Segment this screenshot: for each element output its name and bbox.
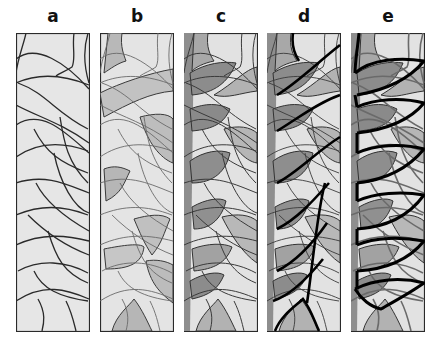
panel-label-e: e xyxy=(351,6,425,26)
panel-label-c: c xyxy=(184,6,258,26)
panel-d xyxy=(267,33,341,332)
panel-e xyxy=(351,33,425,332)
panel-b xyxy=(100,33,174,332)
panel-label-a: a xyxy=(16,6,90,26)
panel-label-d: d xyxy=(267,6,341,26)
panel-a xyxy=(16,33,90,332)
panel-label-b: b xyxy=(100,6,174,26)
panel-c xyxy=(184,33,258,332)
